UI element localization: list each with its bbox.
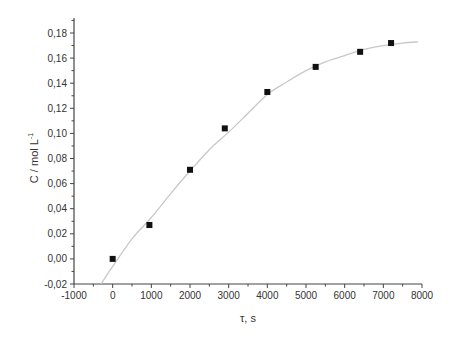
fit-curve [101,42,418,284]
y-axis-title-group: C / mol L-1 [27,133,40,183]
data-points [110,40,394,262]
y-tick-label: 0,06 [48,178,68,189]
x-tick-label: 3000 [218,290,241,301]
x-tick-label: 0 [110,290,116,301]
y-tick-label: 0,00 [48,253,68,264]
y-tick-label: 0,16 [48,53,68,64]
concentration-time-chart: -1000010002000300040005000600070008000-0… [0,0,451,339]
data-point-square-marker [110,256,116,262]
y-axis-title-main: C / mol L [28,139,40,183]
data-point-square-marker [187,167,193,173]
x-tick-label: 8000 [411,290,434,301]
y-tick-label: 0,02 [48,228,68,239]
y-tick-label: 0,08 [48,153,68,164]
x-tick-label: 1000 [140,290,163,301]
data-point-square-marker [222,125,228,131]
y-tick-label: 0,14 [48,78,68,89]
data-point-square-marker [388,40,394,46]
x-tick-label: 7000 [372,290,395,301]
x-tick-label: 5000 [295,290,318,301]
x-tick-label: -1000 [61,290,87,301]
data-point-square-marker [146,222,152,228]
x-axis-title: τ, s [240,312,256,324]
y-tick-label: -0,02 [44,279,67,290]
chart-canvas: -1000010002000300040005000600070008000-0… [0,0,451,339]
y-tick-label: 0,04 [48,203,68,214]
x-tick-label: 6000 [334,290,357,301]
data-point-square-marker [264,89,270,95]
fit-curve-path [101,42,418,284]
y-tick-label: 0,18 [48,28,68,39]
data-point-square-marker [357,49,363,55]
x-tick-label: 2000 [179,290,202,301]
axes: -1000010002000300040005000600070008000-0… [44,18,433,301]
y-axis-title: C / mol L-1 [27,133,40,183]
y-tick-label: 0,12 [48,103,68,114]
y-axis-title-superscript: -1 [27,133,34,139]
x-tick-label: 4000 [256,290,279,301]
y-tick-label: 0,10 [48,128,68,139]
data-point-square-marker [313,64,319,70]
